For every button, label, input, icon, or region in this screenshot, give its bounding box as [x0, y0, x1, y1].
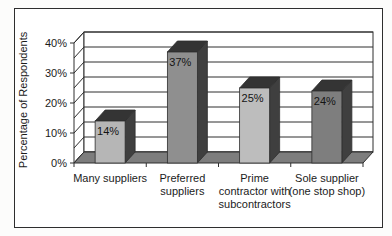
bar-data-label: 37% [169, 56, 191, 68]
category-label: Many suppliers [73, 172, 147, 184]
bar [167, 52, 197, 163]
bar-data-label: 25% [242, 92, 264, 104]
y-tick-label: 0% [51, 157, 67, 169]
bar-data-label: 14% [97, 125, 119, 137]
bar-side-face [197, 41, 207, 163]
bar-side-face [342, 80, 352, 163]
y-tick-label: 40% [45, 37, 67, 49]
bar-chart: Percentage of Respondents0%10%20%30%40%1… [0, 0, 392, 236]
category-label: Sole supplier(one stop shop) [289, 172, 365, 197]
bar-data-label: 24% [314, 95, 336, 107]
bar-side-face [270, 77, 280, 163]
figure-page: Percentage of Respondents0%10%20%30%40%1… [0, 0, 392, 236]
y-axis-title: Percentage of Respondents [17, 31, 29, 168]
y-tick-label: 10% [45, 127, 67, 139]
y-tick-label: 30% [45, 67, 67, 79]
category-label: Preferredsuppliers [159, 172, 205, 197]
y-tick-label: 20% [45, 97, 67, 109]
